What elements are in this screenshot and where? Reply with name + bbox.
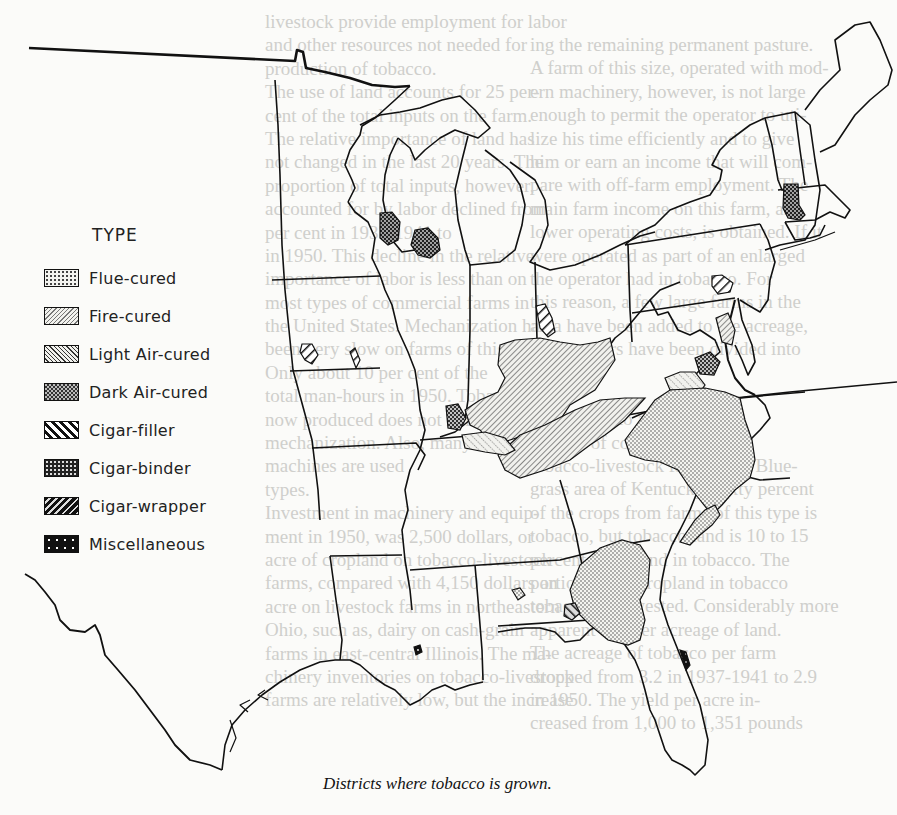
michigan-upper-peninsula (360, 96, 490, 160)
legend-item-lightair: Light Air-cured (44, 335, 210, 373)
district-flue-small-alabama (512, 588, 525, 600)
new-jersey (740, 224, 775, 312)
texas-rio-grande (25, 574, 222, 770)
district-flue-pee-dee (680, 505, 720, 545)
district-binder-wisconsin-south (411, 228, 440, 258)
iowa-missouri-line (290, 368, 380, 371)
district-lightair-maryland (716, 313, 735, 345)
legend-label: Cigar-binder (89, 459, 191, 478)
lake-huron-erie (510, 162, 655, 270)
legend-label: Cigar-filler (89, 421, 175, 440)
chesapeake (725, 300, 755, 395)
delmarva (735, 298, 755, 375)
vermont-nh (765, 118, 795, 190)
legend-label: Flue-cured (89, 269, 177, 288)
legend-title: TYPE (92, 225, 210, 245)
district-binder-wisconsin-north (380, 212, 400, 245)
legend-item-misc: Miscellaneous (44, 525, 210, 563)
wrapper-pattern-swatch-icon (44, 497, 79, 515)
arkansas-north (312, 443, 425, 470)
pennsylvania-south (632, 298, 735, 313)
florida-panhandle-border (498, 620, 590, 626)
district-filler-pennsylvania (712, 275, 733, 294)
legend-item-filler: Cigar-filler (44, 411, 210, 449)
lightair-pattern-swatch-icon (44, 345, 79, 363)
tobacco-districts (300, 184, 805, 670)
michigan-lower (455, 136, 525, 265)
district-flue-old-belt (625, 388, 755, 515)
legend-item-binder: Cigar-binder (44, 449, 210, 487)
map-caption: Districts where tobacco is grown. (323, 774, 552, 794)
canada-border-west (29, 48, 410, 87)
flue-pattern-swatch-icon (44, 269, 79, 287)
filler-pattern-swatch-icon (44, 421, 79, 439)
district-binder-connecticut (783, 184, 805, 220)
binder-pattern-swatch-icon (44, 459, 79, 477)
new-hampshire (795, 112, 805, 185)
mississippi-river (348, 202, 425, 610)
gulf-coast (222, 660, 483, 770)
district-filler-small-minn (350, 348, 360, 368)
map-legend: TYPE Flue-curedFire-curedLight Air-cured… (44, 225, 210, 563)
missouri-west (285, 290, 320, 520)
legend-item-flue: Flue-cured (44, 259, 210, 297)
lake-superior-shore (345, 86, 410, 202)
legend-label: Fire-cured (89, 307, 172, 326)
darkair-pattern-swatch-icon (44, 383, 79, 401)
misc-pattern-swatch-icon (44, 535, 79, 553)
district-filler-minnesota (300, 344, 318, 364)
minnesota-iowa-border (272, 276, 380, 280)
maine-outline (805, 22, 892, 152)
connecticut-ri (785, 222, 825, 240)
district-filler-ohio (536, 304, 555, 337)
iowa-missouri-border (275, 80, 285, 290)
alabama-mississippi (475, 565, 483, 680)
illinois-indiana (465, 265, 470, 420)
legend-label: Miscellaneous (89, 535, 205, 554)
georgia-coast (660, 545, 672, 600)
legend-label: Dark Air-cured (89, 383, 208, 402)
legend-label: Cigar-wrapper (89, 497, 206, 516)
legend-item-wrapper: Cigar-wrapper (44, 487, 210, 525)
district-misc-louisiana (414, 645, 422, 655)
fire-pattern-swatch-icon (44, 307, 79, 325)
louisiana-west (330, 556, 342, 660)
legend-item-fire: Fire-cured (44, 297, 210, 335)
long-island (780, 232, 835, 250)
ohio-pennsylvania (628, 245, 632, 342)
arkansas-south (330, 555, 402, 556)
legend-label: Light Air-cured (89, 345, 210, 364)
legend-item-darkair: Dark Air-cured (44, 373, 210, 411)
district-flue-georgia-florida (570, 540, 650, 645)
